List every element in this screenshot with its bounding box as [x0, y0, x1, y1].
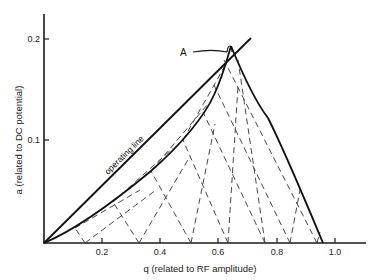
x-tick-label-0.4: 0.4: [154, 247, 167, 257]
x-axis-label: q (related to RF amplitude): [144, 263, 257, 274]
stability-diagram: 0.1 0.2 0.2 0.4 0.6 0.8 1.0 q (related t…: [0, 0, 375, 280]
iso-beta-lines-left-family: [75, 60, 317, 243]
point-a-leader: [193, 51, 227, 53]
axes: [43, 14, 366, 243]
point-a-label: A: [180, 47, 187, 58]
x-tick-label-0.6: 0.6: [212, 247, 225, 257]
x-ticks: 0.2 0.4 0.6 0.8 1.0: [96, 238, 342, 257]
x-tick-label-0.8: 0.8: [271, 247, 284, 257]
stability-boundary-right: [231, 46, 323, 243]
operating-line-label: operating line: [102, 133, 146, 176]
y-tick-label-0.1: 0.1: [27, 135, 40, 145]
y-axis-label: a (related to DC potential): [13, 86, 24, 195]
operating-line: [44, 38, 251, 243]
y-ticks: 0.1 0.2: [27, 34, 49, 145]
y-tick-label-0.2: 0.2: [27, 34, 40, 44]
x-tick-label-0.2: 0.2: [96, 247, 109, 257]
x-tick-label-1.0: 1.0: [329, 247, 342, 257]
